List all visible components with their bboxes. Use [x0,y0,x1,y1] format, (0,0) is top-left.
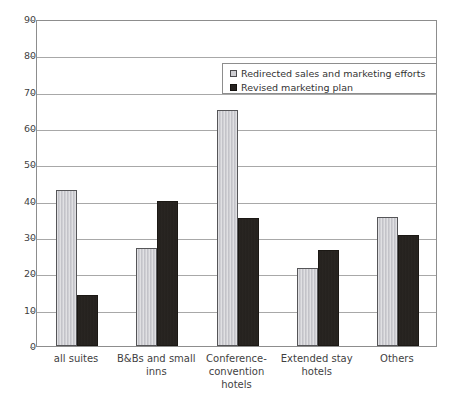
y-tick-mark-70 [30,93,35,94]
legend-swatch-dark-icon [230,84,237,91]
y-tick-mark-50 [30,165,35,166]
y-tick-mark-80 [30,56,35,57]
legend-label: Redirected sales and marketing efforts [241,68,425,79]
x-category-label-line: Conference- [196,352,276,365]
y-tick-mark-40 [30,202,35,203]
legend-item-0: Redirected sales and marketing efforts [230,67,436,79]
x-category-label-line: B&Bs and small [116,352,196,365]
legend-label: Revised marketing plan [241,82,353,93]
bar-revised-3 [318,250,339,346]
bar-redirected-3 [297,268,318,346]
x-category-label-line: hotels [277,365,357,378]
bar-redirected-2 [217,110,238,346]
x-category-label-2: Conference-conventionhotels [196,352,276,391]
bar-revised-2 [238,218,259,346]
x-category-label-line: Others [357,352,437,365]
bar-revised-1 [157,201,178,346]
bar-revised-0 [77,295,98,346]
y-tick-mark-10 [30,311,35,312]
x-axis-category-labels: all suitesB&Bs and smallinnsConference-c… [36,352,437,406]
bar-chart: 0102030405060708090 all suitesB&Bs and s… [0,0,459,406]
x-category-label-line: hotels [196,378,276,391]
bar-redirected-0 [56,190,77,346]
legend-item-1: Revised marketing plan [230,81,436,93]
y-tick-mark-0 [30,347,35,348]
x-category-label-0: all suites [36,352,116,365]
x-category-label-1: B&Bs and smallinns [116,352,196,378]
y-tick-mark-30 [30,238,35,239]
y-tick-mark-60 [30,129,35,130]
chart-legend: Redirected sales and marketing effortsRe… [222,63,437,94]
bar-redirected-4 [377,217,398,346]
y-tick-mark-90 [30,20,35,21]
bar-redirected-1 [136,248,157,346]
x-category-label-line: all suites [36,352,116,365]
y-tick-mark-20 [30,274,35,275]
x-category-label-4: Others [357,352,437,365]
x-category-label-line: Extended stay [277,352,357,365]
x-category-label-3: Extended stayhotels [277,352,357,378]
legend-swatch-light-icon [230,70,237,77]
gridline-80 [37,57,436,58]
x-category-label-line: inns [116,365,196,378]
y-axis: 0102030405060708090 [0,20,36,347]
x-category-label-line: convention [196,365,276,378]
bar-revised-4 [398,235,419,346]
